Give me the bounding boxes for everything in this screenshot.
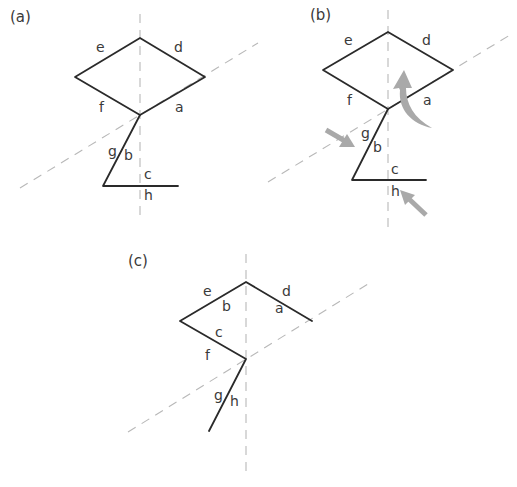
edge-label-g: g xyxy=(108,143,117,159)
panel-b: (b) e d f a g b c h xyxy=(268,6,510,228)
edge-label-b: b xyxy=(373,139,382,155)
edge-label-e: e xyxy=(96,39,105,55)
panel-label-a: (a) xyxy=(10,8,31,26)
edge-label-c: c xyxy=(215,324,223,340)
edge-label-a: a xyxy=(175,99,184,115)
edge-label-f: f xyxy=(205,347,211,363)
edge-label-d: d xyxy=(174,39,183,55)
edge-label-e: e xyxy=(344,32,353,48)
edge-label-h: h xyxy=(230,393,239,409)
push-arrow-lower-right-icon xyxy=(400,190,426,215)
edge-label-c: c xyxy=(391,161,399,177)
diagonal-fold-axis xyxy=(128,284,368,432)
edge-label-a: a xyxy=(275,300,284,316)
edge-label-g: g xyxy=(214,387,223,403)
panel-a: (a) e d f a g b c h xyxy=(10,8,258,218)
edge-label-a: a xyxy=(423,92,432,108)
edge-label-e: e xyxy=(203,283,212,299)
edge-label-h: h xyxy=(391,183,400,199)
edge-label-d: d xyxy=(422,32,431,48)
edge-label-f: f xyxy=(347,92,353,108)
folding-diagram: (a) e d f a g b c h (b) e d f xyxy=(0,0,517,487)
panel-label-b: (b) xyxy=(310,6,331,24)
edge-label-h: h xyxy=(144,187,153,203)
panel-c: (c) e b d a c f g h xyxy=(128,252,368,475)
edge-label-b: b xyxy=(222,298,231,314)
edge-label-c: c xyxy=(144,166,152,182)
edge-label-d: d xyxy=(282,283,291,299)
edge-label-f: f xyxy=(99,99,105,115)
edge-label-g: g xyxy=(361,125,370,141)
edge-label-b: b xyxy=(124,147,133,163)
panel-label-c: (c) xyxy=(128,252,148,270)
